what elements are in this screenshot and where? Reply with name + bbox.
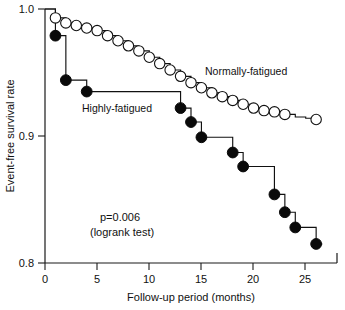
censor-marker-open-circle [311, 114, 321, 124]
censor-marker-open-circle [61, 18, 71, 28]
event-marker-filled-circle [311, 239, 322, 250]
series-markers-highly-fatigued [50, 30, 322, 249]
censor-marker-open-circle [92, 25, 102, 35]
x-tick-label-20: 20 [247, 273, 259, 285]
censor-marker-open-circle [259, 105, 269, 115]
series-label-highly-fatigued: Highly-fatigued [82, 102, 152, 114]
censor-marker-open-circle [134, 46, 144, 56]
survival-curve-figure: 1.0 0.9 0.8 0 5 10 15 20 25 Follow-up pe… [0, 0, 345, 310]
event-marker-filled-circle [279, 207, 290, 218]
censor-marker-open-circle [269, 107, 279, 117]
x-tick-label-5: 5 [94, 273, 100, 285]
censor-marker-open-circle [113, 36, 123, 46]
censor-marker-open-circle [217, 91, 227, 101]
event-marker-filled-circle [269, 189, 280, 200]
censor-marker-open-circle [196, 83, 206, 93]
x-tick-label-10: 10 [143, 273, 155, 285]
event-marker-filled-circle [186, 117, 197, 128]
censor-marker-open-circle [175, 71, 185, 81]
censor-marker-open-circle [144, 52, 154, 62]
event-marker-filled-circle [238, 161, 249, 172]
censor-marker-open-circle [82, 23, 92, 33]
annotation-p-value: p=0.006 [100, 211, 140, 223]
kaplan-meier-chart: 1.0 0.9 0.8 0 5 10 15 20 25 Follow-up pe… [0, 0, 345, 310]
y-axis-title: Event-free survival rate [4, 79, 16, 192]
x-axis-title: Follow-up period (months) [127, 291, 255, 303]
event-marker-filled-circle [81, 86, 92, 97]
event-marker-filled-circle [227, 147, 238, 158]
event-marker-filled-circle [175, 103, 186, 114]
annotation-test-name: (logrank test) [90, 226, 154, 238]
x-tick-label-0: 0 [42, 273, 48, 285]
x-tick-label-15: 15 [195, 273, 207, 285]
event-marker-filled-circle [50, 30, 61, 41]
censor-marker-open-circle [155, 58, 165, 68]
y-ticks-group: 1.0 0.9 0.8 [19, 3, 45, 269]
censor-marker-open-circle [50, 13, 60, 23]
censor-marker-open-circle [186, 77, 196, 87]
event-marker-filled-circle [196, 132, 207, 143]
censor-marker-open-circle [280, 109, 290, 119]
event-marker-filled-circle [60, 75, 71, 86]
y-tick-label-top: 1.0 [19, 3, 34, 15]
censor-marker-open-circle [165, 65, 175, 75]
censor-marker-open-circle [228, 95, 238, 105]
censor-marker-open-circle [102, 30, 112, 40]
censor-marker-open-circle [123, 41, 133, 51]
x-tick-label-25: 25 [299, 273, 311, 285]
censor-marker-open-circle [207, 88, 217, 98]
y-tick-label-mid: 0.9 [19, 130, 34, 142]
event-marker-filled-circle [290, 222, 301, 233]
censor-marker-open-circle [71, 20, 81, 30]
censor-marker-open-circle [248, 103, 258, 113]
x-ticks-group: 0 5 10 15 20 25 [42, 263, 311, 285]
series-label-normally-fatigued: Normally-fatigued [205, 65, 287, 77]
y-tick-label-bottom: 0.8 [19, 257, 34, 269]
censor-marker-open-circle [238, 99, 248, 109]
